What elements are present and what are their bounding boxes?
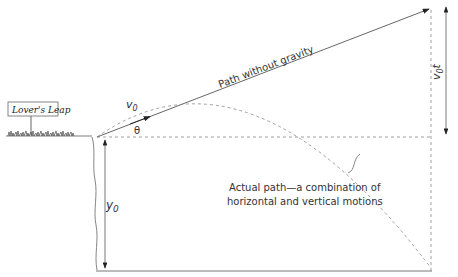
v0t-label: v0t [430,63,445,80]
cliff-top-grass [6,131,92,136]
y0-label: y0 [105,198,119,214]
sign-text: Lover's Leap [11,105,71,115]
cliff-face [92,137,97,270]
lovers-leap-sign: Lover's Leap [8,102,71,135]
actual-path-label-line2: horizontal and vertical motions [227,196,383,207]
path-without-gravity-label: Path without gravity [217,43,315,90]
v0-vector-arrow [130,117,150,125]
actual-path-leader [348,154,360,173]
v0-label: v0 [126,98,138,113]
actual-path-label-line1: Actual path—a combination of [229,182,381,193]
projectile-diagram: Lover's Leap v0 θ Path without gravity v… [0,0,458,277]
theta-label: θ [134,125,140,136]
